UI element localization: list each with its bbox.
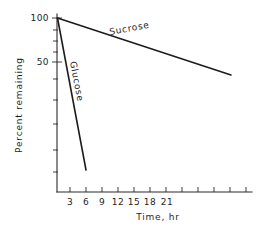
x-tick-label-9: 9 bbox=[99, 197, 105, 207]
series-labels: Sucrose Glucose bbox=[68, 20, 150, 103]
y-axis-tick-labels: 100 50 bbox=[31, 13, 49, 67]
x-axis-tick-labels: 3 6 9 12 15 18 21 bbox=[67, 197, 173, 207]
chart-axes bbox=[57, 14, 252, 192]
x-tick-label-6: 6 bbox=[83, 197, 89, 207]
series-label-sucrose: Sucrose bbox=[109, 20, 151, 37]
decay-chart-svg: 100 50 3 6 9 12 15 18 21 bbox=[0, 0, 257, 226]
x-tick-label-12: 12 bbox=[112, 197, 124, 207]
x-tick-label-18: 18 bbox=[144, 197, 156, 207]
series-label-glucose: Glucose bbox=[68, 60, 86, 102]
x-tick-label-21: 21 bbox=[161, 197, 173, 207]
y-tick-label-50: 50 bbox=[37, 57, 49, 67]
chart-figure: 100 50 3 6 9 12 15 18 21 bbox=[0, 0, 257, 226]
x-axis-ticks bbox=[70, 187, 246, 192]
x-axis-title: Time, hr bbox=[135, 212, 180, 222]
x-tick-label-15: 15 bbox=[128, 197, 140, 207]
y-tick-label-100: 100 bbox=[31, 13, 49, 23]
x-tick-label-3: 3 bbox=[67, 197, 73, 207]
y-axis-title: Percent remaining bbox=[14, 57, 24, 153]
